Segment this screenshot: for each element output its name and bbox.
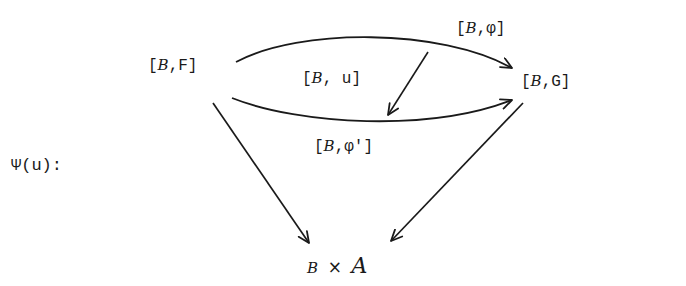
edge-top-sep: ,	[477, 20, 487, 38]
node-target-category: B	[531, 72, 542, 90]
node-source-close: ]	[188, 57, 198, 75]
two-cell-close: ]	[351, 70, 361, 88]
two-cell-arrow	[388, 52, 428, 115]
node-target-open: [	[521, 73, 531, 91]
node-source-sep: ,	[169, 57, 179, 75]
top-arc-arrow	[236, 37, 512, 68]
edge-top-category: B	[466, 19, 477, 37]
node-source: [B,F]	[148, 58, 197, 74]
two-cell-sep: ,	[323, 70, 342, 88]
node-target-close: ]	[561, 73, 571, 91]
node-bottom-right: A	[352, 253, 368, 278]
two-cell-morphism: u	[342, 70, 352, 88]
two-cell-open: [	[302, 70, 312, 88]
bottom-arc-arrow	[232, 98, 512, 121]
edge-bottom-category: B	[324, 137, 335, 155]
node-source-category: B	[158, 56, 169, 74]
node-source-open: [	[148, 57, 158, 75]
edge-bottom-morphism: φ'	[344, 138, 363, 156]
two-cell-category: B	[312, 69, 323, 87]
edge-bottom-open: [	[314, 138, 324, 156]
edge-bottom-close: ]	[363, 138, 373, 156]
node-bottom: B × A	[307, 255, 367, 277]
left-diagonal-arrow	[213, 103, 309, 243]
node-bottom-times: ×	[328, 257, 342, 277]
diagram-title-label: Ψ(u):	[11, 157, 62, 174]
edge-top-open: [	[456, 20, 466, 38]
node-source-object: F	[178, 57, 188, 75]
node-bottom-left: B	[307, 259, 318, 277]
node-target: [B,G]	[521, 74, 570, 90]
node-target-object: G	[551, 73, 561, 91]
edge-bottom-sep: ,	[335, 138, 345, 156]
edge-label-two-cell: [B, u]	[302, 71, 361, 87]
node-target-sep: ,	[542, 73, 552, 91]
edge-label-bottom-arc: [B,φ']	[314, 139, 373, 155]
edge-top-morphism: φ	[486, 20, 496, 38]
edge-label-top-arc: [B,φ]	[456, 21, 505, 37]
right-diagonal-arrow	[391, 103, 523, 241]
edge-top-close: ]	[496, 20, 506, 38]
